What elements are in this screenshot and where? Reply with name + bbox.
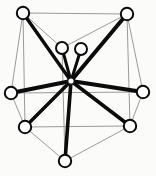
graph-node-bottom[interactable]: [59, 155, 71, 167]
graph-node-inner-right[interactable]: [75, 43, 87, 55]
graph-node-bottom-left[interactable]: [19, 121, 31, 133]
graph-canvas: [0, 0, 156, 176]
graph-node-inner-left[interactable]: [56, 42, 68, 54]
graph-node-hub[interactable]: [68, 78, 74, 84]
graph-figure: [0, 0, 156, 176]
graph-node-right[interactable]: [137, 86, 149, 98]
graph-node-top-left[interactable]: [17, 7, 29, 19]
graph-node-top-right[interactable]: [121, 8, 133, 20]
graph-node-left[interactable]: [5, 87, 17, 99]
graph-node-bottom-right[interactable]: [124, 120, 136, 132]
